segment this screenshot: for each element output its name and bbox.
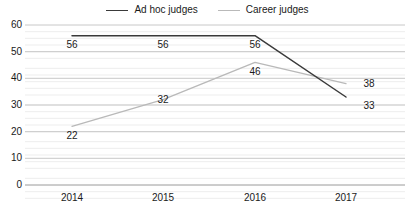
y-axis-tick-50: 50 — [0, 46, 22, 57]
y-axis-tick-40: 40 — [0, 72, 22, 83]
line-chart: Ad hoc judges Career judges — [0, 0, 415, 212]
y-axis-tick-10: 10 — [0, 152, 22, 163]
data-label-career-2017: 38 — [354, 78, 384, 89]
data-label-ad-hoc-2017: 33 — [354, 100, 384, 111]
series-line-career-judges — [72, 62, 346, 126]
y-axis-tick-30: 30 — [0, 99, 22, 110]
data-label-ad-hoc-2016: 56 — [240, 39, 270, 50]
y-axis-tick-0: 0 — [0, 179, 22, 190]
data-label-ad-hoc-2015: 56 — [148, 39, 178, 50]
x-axis-tick-2014: 2014 — [44, 192, 100, 203]
y-axis-tick-20: 20 — [0, 126, 22, 137]
data-label-career-2016: 46 — [240, 66, 270, 77]
data-label-career-2015: 32 — [148, 94, 178, 105]
plot-canvas — [0, 0, 415, 212]
x-axis-tick-2017: 2017 — [318, 192, 374, 203]
y-axis-tick-60: 60 — [0, 19, 22, 30]
x-axis-tick-2015: 2015 — [135, 192, 191, 203]
data-label-ad-hoc-2014: 56 — [57, 39, 87, 50]
plot-area: 60 50 40 30 20 10 0 2014 2015 2016 2017 … — [0, 0, 415, 212]
x-axis-tick-2016: 2016 — [227, 192, 283, 203]
minor-gridlines — [25, 32, 405, 199]
data-label-career-2014: 22 — [57, 130, 87, 141]
